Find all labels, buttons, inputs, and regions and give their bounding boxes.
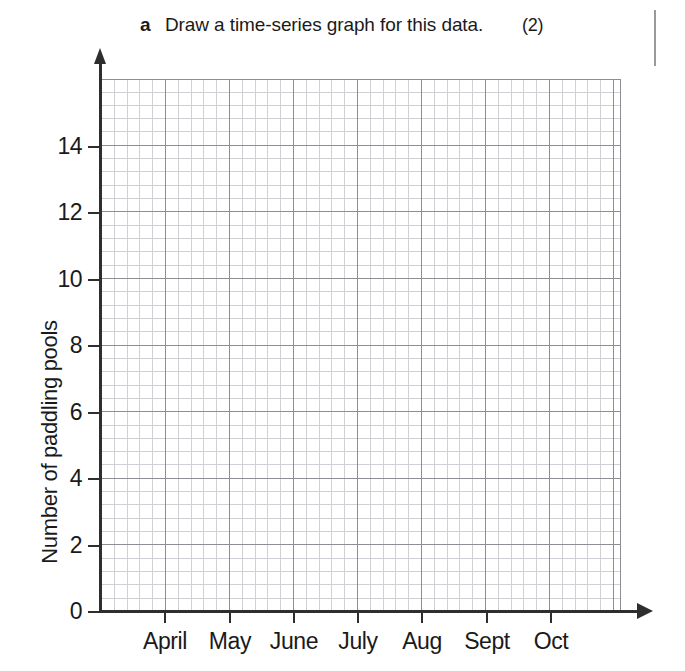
x-tick-july [357,612,359,623]
y-tick-label-0: 0 [36,600,82,623]
x-tick-april [164,612,166,623]
y-axis-arrow-icon [94,48,106,64]
x-tick-sept [486,612,488,623]
y-tick-12 [88,212,100,214]
y-tick-4 [88,478,100,480]
x-axis-arrow-icon [637,603,653,619]
x-axis-line [99,610,639,613]
x-tick-june [293,612,295,623]
y-tick-0 [88,611,100,613]
y-tick-label-wrap-14: 14 [34,135,82,158]
y-tick-10 [88,279,100,281]
time-series-graph-grid: 0 2 4 6 8 10 12 14 April May June July A… [0,0,685,671]
y-axis-line [99,60,102,613]
x-tick-label-oct: Oct [506,628,596,654]
y-tick-14 [88,146,100,148]
grid-top-edge [101,79,621,80]
y-tick-label-wrap-12: 12 [34,201,82,224]
y-tick-label-14: 14 [36,135,82,158]
x-tick-aug [421,612,423,623]
graph-grid-panel [101,79,620,612]
y-tick-8 [88,345,100,347]
y-tick-label-12: 12 [36,201,82,224]
y-axis-title: Number of paddling pools [38,282,62,602]
x-tick-may [229,612,231,623]
y-tick-label-wrap-0: 0 [34,600,82,623]
x-tick-oct [550,612,552,623]
grid-right-edge [620,79,621,612]
y-tick-6 [88,412,100,414]
y-tick-2 [88,545,100,547]
